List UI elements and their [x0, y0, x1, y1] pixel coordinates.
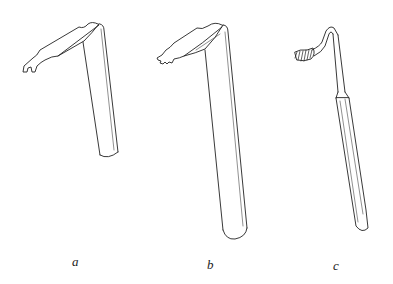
- instrument-b: [157, 23, 247, 239]
- instrument-a: [23, 23, 118, 157]
- label-b: b: [207, 257, 214, 273]
- label-a: a: [72, 254, 79, 270]
- retractor-illustration: [0, 0, 393, 284]
- label-c: c: [333, 258, 339, 274]
- instrument-c: [295, 27, 368, 231]
